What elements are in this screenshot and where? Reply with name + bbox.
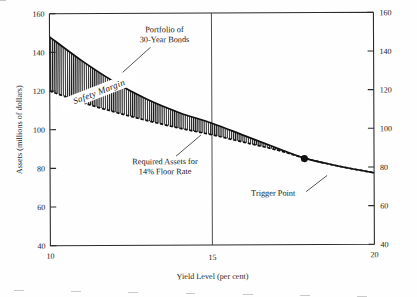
annotation-portfolio: Portfolio of 30-Year Bonds (122, 25, 189, 72)
annotation-required-line1: Required Assets for (132, 157, 198, 166)
xtick-label-15: 15 (208, 253, 216, 262)
ytick-right-label-140: 140 (380, 47, 392, 56)
annotation-trigger-leader (306, 175, 327, 191)
ytick-label-160: 160 (32, 10, 44, 19)
annotation-required-leader (176, 135, 201, 156)
ytick-right-label-80: 80 (380, 163, 388, 172)
ytick-right-label-160: 160 (379, 8, 391, 17)
y-axis-title: Assets (millions of dollars) (15, 85, 24, 174)
xtick-label-10: 10 (46, 252, 54, 261)
y-axis-left-labels: 160 140 120 100 80 60 40 (32, 10, 45, 251)
xtick-label-20: 20 (370, 250, 378, 259)
annotation-required: Required Assets for 14% Floor Rate (132, 135, 201, 176)
annotation-portfolio-leader (123, 47, 151, 72)
ytick-label-80: 80 (37, 164, 45, 173)
annotation-trigger: Trigger Point (251, 175, 327, 197)
ytick-right-label-40: 40 (380, 240, 388, 249)
figure-container: 160 140 120 100 80 60 40 160 140 120 100… (0, 0, 417, 297)
ytick-right-label-60: 60 (380, 202, 388, 211)
annotation-portfolio-line2: 30-Year Bonds (140, 35, 190, 44)
gridline-x-15 (211, 13, 212, 245)
ytick-label-40: 40 (37, 242, 45, 251)
x-axis-labels: 10 15 20 (46, 250, 378, 262)
ytick-label-60: 60 (37, 203, 45, 212)
y-axis-right-labels: 160 140 120 100 80 60 40 (379, 8, 392, 249)
ytick-right-label-100: 100 (380, 124, 392, 133)
immunization-chart: 160 140 120 100 80 60 40 160 140 120 100… (0, 0, 417, 297)
x-axis-title: Yield Level (per cent) (177, 272, 249, 281)
ytick-label-100: 100 (33, 126, 45, 135)
ytick-label-140: 140 (33, 48, 45, 57)
ytick-label-120: 120 (33, 87, 45, 96)
ytick-right-label-120: 120 (380, 85, 392, 94)
annotation-portfolio-line1: Portfolio of (145, 25, 184, 34)
annotation-trigger-label: Trigger Point (251, 189, 296, 198)
annotation-required-line2: 14% Floor Rate (139, 167, 192, 176)
trigger-point-marker (301, 155, 308, 162)
